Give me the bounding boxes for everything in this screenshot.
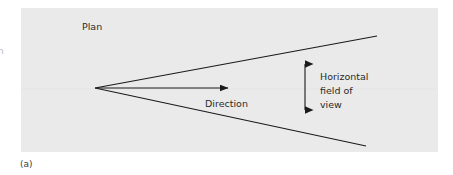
page-edge-text-fragment: n — [0, 46, 4, 56]
field-of-view-diagram: Plan Direction Horizontal field of view … — [0, 0, 453, 175]
field-of-view-label-line2: field of — [320, 85, 353, 96]
figure-container: Plan Direction Horizontal field of view … — [0, 0, 453, 175]
field-of-view-label-line1: Horizontal — [320, 71, 369, 82]
figure-caption: (a) — [20, 159, 33, 169]
plan-label: Plan — [82, 21, 102, 32]
direction-label: Direction — [205, 98, 248, 109]
field-of-view-label-line3: view — [320, 99, 342, 110]
